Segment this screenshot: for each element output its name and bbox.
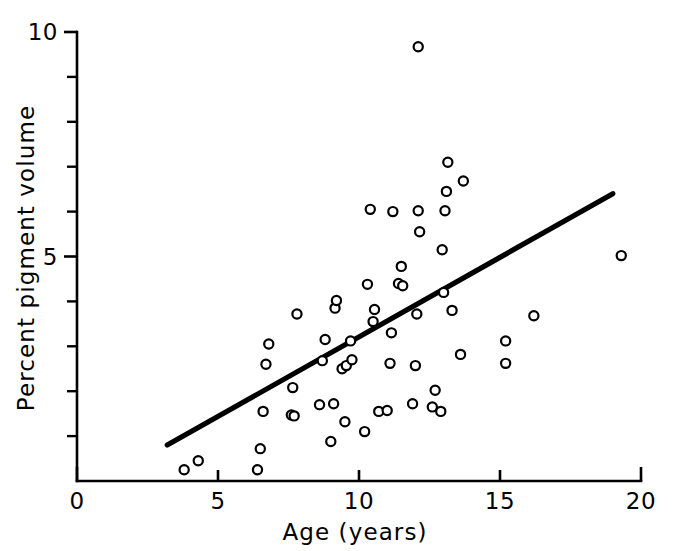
axes-group <box>77 32 641 481</box>
x-tick-label: 0 <box>69 488 84 514</box>
data-point <box>415 227 424 236</box>
data-point <box>414 42 423 51</box>
data-point <box>290 411 299 420</box>
data-point <box>366 205 375 214</box>
data-point <box>442 187 451 196</box>
data-point <box>346 336 355 345</box>
data-points <box>180 42 626 474</box>
data-point <box>447 306 456 315</box>
tick-labels: 05101520510 <box>28 19 656 514</box>
data-point <box>326 437 335 446</box>
data-point <box>332 296 341 305</box>
data-point <box>318 356 327 365</box>
data-point <box>363 280 372 289</box>
data-point <box>456 350 465 359</box>
data-point <box>292 309 301 318</box>
data-point <box>256 444 265 453</box>
data-point <box>387 328 396 337</box>
data-point <box>431 386 440 395</box>
data-point <box>459 176 468 185</box>
data-point <box>264 339 273 348</box>
x-tick-label: 10 <box>344 488 374 514</box>
x-axis-title: Age (years) <box>282 519 427 545</box>
x-tick-label: 15 <box>485 488 515 514</box>
y-tick-marks <box>64 32 77 436</box>
data-point <box>383 406 392 415</box>
data-point <box>329 399 338 408</box>
data-point <box>347 355 356 364</box>
data-point <box>259 407 268 416</box>
x-tick-label: 5 <box>210 488 225 514</box>
data-point <box>398 281 407 290</box>
data-point <box>261 360 270 369</box>
data-point <box>253 465 262 474</box>
data-point <box>370 305 379 314</box>
data-point <box>321 335 330 344</box>
data-point <box>397 262 406 271</box>
data-point <box>388 207 397 216</box>
data-point <box>436 407 445 416</box>
data-point <box>360 427 369 436</box>
data-point <box>288 383 297 392</box>
data-point <box>617 251 626 260</box>
x-tick-marks <box>77 467 641 481</box>
scatter-plot: 05101520510 Age (years) Percent pigment … <box>0 0 675 551</box>
data-point <box>440 206 449 215</box>
data-point <box>443 158 452 167</box>
data-point <box>501 336 510 345</box>
y-tick-label: 5 <box>43 244 58 270</box>
data-point <box>414 206 423 215</box>
data-point <box>180 465 189 474</box>
x-tick-label: 20 <box>626 488 656 514</box>
data-point <box>439 288 448 297</box>
data-point <box>369 317 378 326</box>
figure-container: 05101520510 Age (years) Percent pigment … <box>0 0 675 551</box>
data-point <box>501 359 510 368</box>
y-axis-title: Percent pigment volume <box>13 105 39 411</box>
data-point <box>315 400 324 409</box>
data-point <box>412 309 421 318</box>
y-tick-label: 10 <box>28 19 58 45</box>
data-point <box>340 417 349 426</box>
data-point <box>408 399 417 408</box>
data-point <box>385 359 394 368</box>
data-point <box>194 456 203 465</box>
data-point <box>411 361 420 370</box>
data-point <box>438 245 447 254</box>
data-point <box>529 311 538 320</box>
